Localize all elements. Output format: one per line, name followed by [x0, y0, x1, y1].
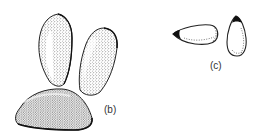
seed-upright-right	[79, 28, 117, 95]
seed-lying	[16, 89, 93, 130]
panel-c	[173, 16, 246, 56]
seed-upright-left	[39, 14, 72, 86]
panel-b	[16, 14, 118, 130]
panel-b-label: (b)	[104, 105, 116, 115]
seed-horizontal	[173, 25, 218, 45]
panel-c-label: (c)	[210, 61, 222, 71]
seed-vertical	[227, 16, 246, 56]
